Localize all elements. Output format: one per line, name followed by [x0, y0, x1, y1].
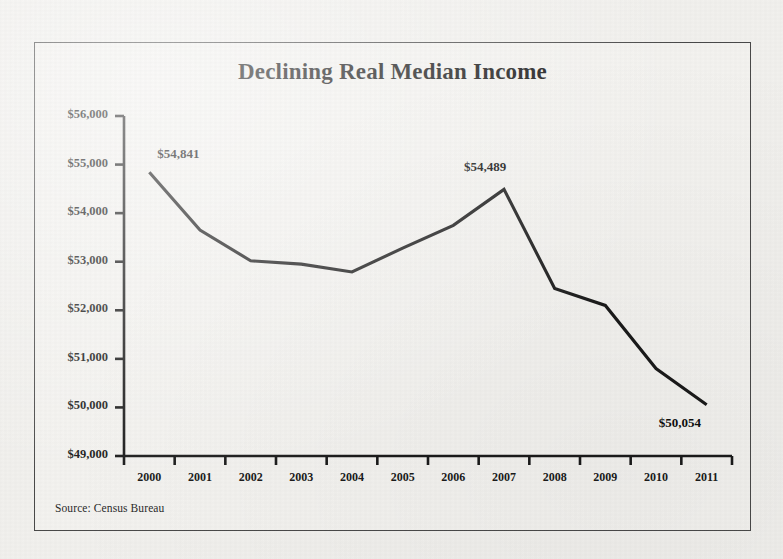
data-line-series [149, 172, 706, 405]
x-axis-tick-label: 2005 [377, 470, 428, 485]
x-axis-tick-label: 2009 [580, 470, 631, 485]
y-axis-tick-label: $56,000 [67, 107, 108, 122]
y-axis-tick-label: $49,000 [67, 447, 108, 462]
y-axis-tick-label: $51,000 [67, 350, 108, 365]
x-axis-tick-label: 2010 [631, 470, 682, 485]
x-axis-tick-label: 2002 [225, 470, 276, 485]
x-axis-tick-label: 2001 [175, 470, 226, 485]
line-chart-svg [35, 43, 752, 532]
data-point-label: $54,489 [464, 159, 506, 175]
x-axis-tick-label: 2011 [681, 470, 732, 485]
y-axis-tick-label: $53,000 [67, 253, 108, 268]
y-axis-tick-label: $55,000 [67, 156, 108, 171]
x-axis-tick-label: 2000 [124, 470, 175, 485]
x-axis-tick-label: 2008 [529, 470, 580, 485]
x-axis-tick-label: 2003 [276, 470, 327, 485]
chart-figure-box: Declining Real Median Income $56,000$55,… [34, 42, 751, 531]
x-axis-tick-label: 2004 [327, 470, 378, 485]
data-point-label: $50,054 [659, 415, 701, 431]
x-axis-tick-label: 2007 [479, 470, 530, 485]
data-point-label: $54,841 [157, 146, 199, 162]
y-axis-tick-label: $52,000 [67, 301, 108, 316]
x-axis-tick-label: 2006 [428, 470, 479, 485]
y-axis-tick-label: $54,000 [67, 204, 108, 219]
plot-area [35, 43, 752, 532]
y-axis-tick-label: $50,000 [67, 398, 108, 413]
source-note: Source: Census Bureau [55, 502, 164, 514]
